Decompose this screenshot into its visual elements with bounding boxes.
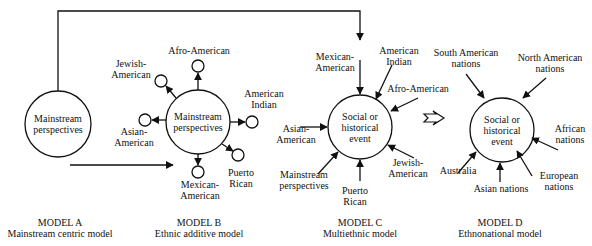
model-d-center-label: Social or historical event: [483, 114, 520, 147]
model-title: MODEL A: [8, 217, 113, 228]
label-puerto-rican: PuertoRican: [228, 168, 254, 189]
model-d-caption: MODEL D Ethnonational model: [458, 217, 542, 239]
center-line: Mainstream: [173, 111, 222, 122]
label-line: South American: [434, 48, 499, 59]
label-line: American: [379, 46, 418, 57]
label-line: American: [111, 70, 150, 81]
model-b-caption: MODEL B Ethnic additive model: [155, 217, 243, 239]
center-line: historical: [341, 122, 378, 133]
label-asian-american: Asian-American: [114, 127, 153, 148]
model-subtitle: Mainstream centric model: [8, 228, 113, 239]
label-line: Mexican-: [315, 52, 354, 63]
label-line: nations: [555, 135, 586, 146]
label-c-asian-american: Asian-American: [276, 124, 315, 145]
satellite-american-indian: [246, 116, 258, 128]
label-line: perspectives: [279, 181, 328, 192]
label-c-jewish-american: Jewish-American: [388, 158, 427, 179]
model-a-center-label: Mainstream perspectives: [33, 113, 82, 135]
label-line: nations: [518, 64, 583, 75]
label-line: Rican: [228, 179, 254, 190]
label-c-american-indian: AmericanIndian: [379, 46, 418, 67]
label-line: American: [180, 191, 219, 202]
label-line: Indian: [379, 57, 418, 68]
satellite-jewish-american: [155, 75, 167, 87]
label-line: Mexican-: [180, 180, 219, 191]
model-subtitle: Multiethnic model: [323, 228, 397, 239]
label-c-puerto-rican: PuertoRican: [342, 186, 368, 207]
label-american-indian: AmericanIndian: [244, 89, 283, 110]
center-line: Mainstream: [33, 113, 82, 124]
label-d-african: Africannations: [555, 124, 586, 145]
satellite-mexican-american: [192, 166, 204, 178]
model-a-caption: MODEL A Mainstream centric model: [8, 217, 113, 239]
label-line: Mainstream: [279, 170, 328, 181]
model-subtitle: Ethnonational model: [458, 228, 542, 239]
center-line: historical: [483, 125, 520, 136]
label-jewish-american: Jewish-American: [111, 59, 150, 80]
label-afro-american: Afro-American: [168, 46, 230, 57]
label-line: Indian: [244, 100, 283, 111]
satellite-puerto-rican: [232, 149, 244, 161]
model-c-center-label: Social or historical event: [341, 111, 378, 144]
label-line: nations: [540, 182, 578, 193]
model-title: MODEL B: [155, 217, 243, 228]
label-line: African: [555, 124, 586, 135]
model-b-center-label: Mainstream perspectives: [173, 111, 222, 133]
satellite-afro-american: [192, 60, 204, 72]
label-line: Jewish-: [111, 59, 150, 70]
label-line: American: [388, 169, 427, 180]
label-line: Afro-American: [168, 46, 230, 57]
model-title: MODEL D: [458, 217, 542, 228]
label-c-mainstream-perspectives: Mainstreamperspectives: [279, 170, 328, 191]
label-c-mexican-american: Mexican-American: [315, 52, 354, 73]
label-line: American: [276, 135, 315, 146]
model-title: MODEL C: [323, 217, 397, 228]
label-line: Asian-: [114, 127, 153, 138]
center-line: event: [483, 136, 520, 147]
label-d-south-american: South Americannations: [434, 48, 499, 69]
label-d-asian: Asian nations: [474, 184, 529, 195]
label-line: Puerto: [228, 168, 254, 179]
label-line: American: [244, 89, 283, 100]
label-line: Asian-: [276, 124, 315, 135]
label-line: Rican: [342, 197, 368, 208]
transition-arrow: [424, 111, 444, 125]
label-line: Afro-American: [387, 84, 449, 95]
label-c-afro-american: Afro-American: [387, 84, 449, 95]
label-line: European: [540, 171, 578, 182]
label-d-north-american: North Americannations: [518, 53, 583, 74]
label-d-australia: Australia: [440, 166, 477, 177]
label-line: Australia: [440, 166, 477, 177]
label-line: American: [114, 138, 153, 149]
label-line: Puerto: [342, 186, 368, 197]
label-line: North American: [518, 53, 583, 64]
label-d-european: Europeannations: [540, 171, 578, 192]
model-subtitle: Ethnic additive model: [155, 228, 243, 239]
label-line: American: [315, 63, 354, 74]
center-line: perspectives: [33, 124, 82, 135]
label-mexican-american: Mexican-American: [180, 180, 219, 201]
center-line: Social or: [341, 111, 378, 122]
label-line: Asian nations: [474, 184, 529, 195]
label-line: nations: [434, 59, 499, 70]
model-c-caption: MODEL C Multiethnic model: [323, 217, 397, 239]
center-line: perspectives: [173, 122, 222, 133]
satellite-asian-american: [139, 114, 151, 126]
center-line: event: [341, 133, 378, 144]
label-line: Jewish-: [388, 158, 427, 169]
center-line: Social or: [483, 114, 520, 125]
